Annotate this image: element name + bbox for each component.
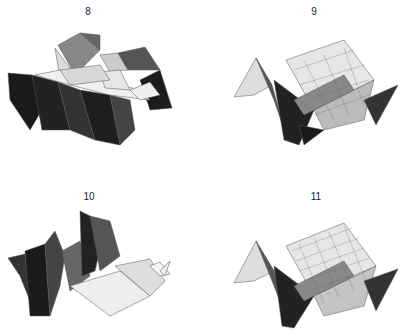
- surface-10-graphic: [0, 166, 204, 332]
- surface-9-graphic: [204, 0, 407, 166]
- surface-plot-10: 10: [0, 166, 204, 332]
- surface-plot-8: 8: [0, 0, 204, 166]
- surface-11-graphic: [204, 166, 407, 332]
- surface-plot-9: 9: [204, 0, 407, 166]
- surface-plot-11: 11: [204, 166, 407, 332]
- surface-8-graphic: [0, 0, 204, 166]
